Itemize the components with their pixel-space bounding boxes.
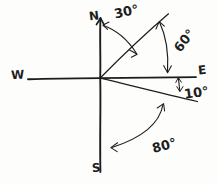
north-label: N: [88, 9, 99, 22]
arc-60-degrees: [156, 22, 171, 73]
east-label: E: [197, 64, 206, 77]
arc-30-degrees: [103, 22, 137, 57]
north-south-axis: [97, 18, 105, 172]
west-east-axis: [28, 77, 196, 79]
bearing-diagram-canvas: N S E W 30° 60° 10° 80°: [0, 0, 218, 184]
angle-label-10-degrees: 10°: [183, 84, 209, 100]
west-label: W: [11, 69, 25, 82]
south-label: S: [91, 162, 101, 175]
arc-10-degrees: [176, 78, 183, 92]
